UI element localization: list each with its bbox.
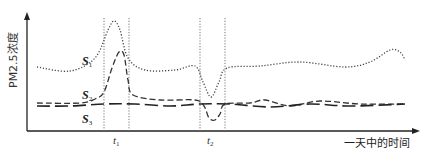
x-axis-label: 一天中的时间 xyxy=(344,136,410,150)
x-axis-arrow-icon xyxy=(412,128,420,134)
series-label-s1: S1 xyxy=(82,54,93,69)
svg-text:S1: S1 xyxy=(82,54,93,69)
series-label-s2: S2 xyxy=(82,88,93,103)
chart: PM2.5浓度 一天中的时间 S1 S2 S3 t1 t2 xyxy=(0,0,428,155)
y-axis-label: PM2.5浓度 xyxy=(6,32,20,88)
svg-text:t2: t2 xyxy=(207,134,214,148)
svg-text:t1: t1 xyxy=(113,134,120,148)
svg-text:S2: S2 xyxy=(82,88,93,103)
svg-text:S3: S3 xyxy=(82,112,93,127)
series-label-s3: S3 xyxy=(82,112,93,127)
x-tick-t1: t1 xyxy=(113,134,120,148)
series-line-s1 xyxy=(37,21,405,97)
series-line-s3 xyxy=(37,104,405,107)
y-axis-arrow-icon xyxy=(24,12,30,20)
x-tick-t2: t2 xyxy=(207,134,214,148)
series-layer xyxy=(37,21,405,120)
